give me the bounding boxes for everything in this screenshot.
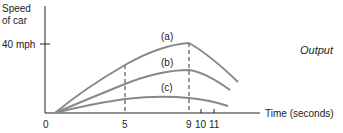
x-tick-label-0: 0 bbox=[43, 119, 49, 130]
series-label-a: (a) bbox=[161, 31, 173, 42]
curve-c bbox=[55, 97, 228, 113]
output-annotation: Output bbox=[300, 44, 334, 56]
x-tick-label-9: 9 bbox=[186, 119, 192, 130]
x-tick-label-10: 10 bbox=[195, 119, 207, 130]
x-tick-label-11: 11 bbox=[209, 119, 220, 130]
y-axis-label-line1: Speed bbox=[2, 3, 31, 14]
speed-time-chart: Speed of car 40 mph 0 5 9 10 11 Time (se… bbox=[0, 0, 343, 133]
series-label-c: (c) bbox=[161, 82, 173, 93]
x-axis-label: Time (seconds) bbox=[265, 108, 334, 119]
y-axis-label-line2: of car bbox=[2, 15, 28, 26]
series-label-b: (b) bbox=[161, 57, 173, 68]
x-tick-label-5: 5 bbox=[122, 119, 128, 130]
y-tick-label-40: 40 mph bbox=[2, 39, 35, 50]
